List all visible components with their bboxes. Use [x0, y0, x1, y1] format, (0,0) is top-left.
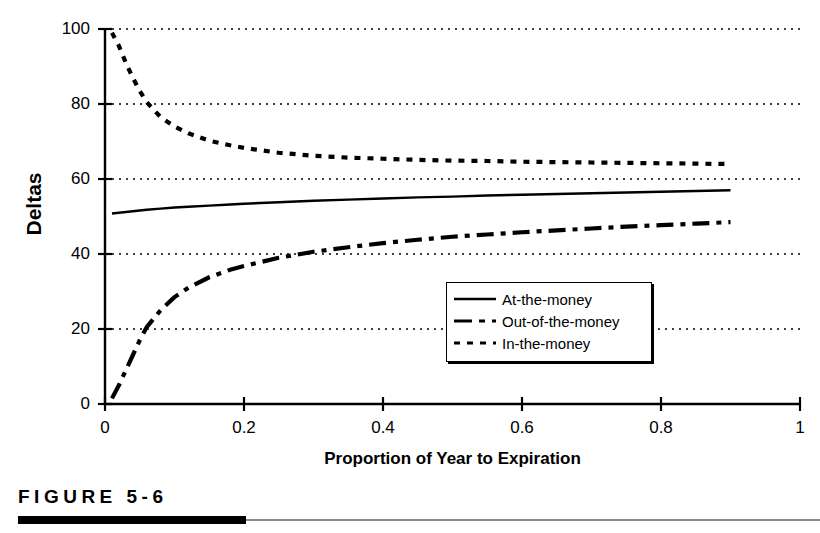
legend-label-at-the-money: At-the-money: [502, 292, 592, 307]
caption-rule-thick: [18, 516, 246, 524]
y-tick-label: 100: [28, 19, 90, 39]
legend-item: At-the-money: [453, 288, 645, 310]
x-tick-label: 0.2: [232, 418, 256, 438]
series-line-in-the-money: [112, 33, 731, 164]
figure-caption-text: FIGURE 5-6: [18, 486, 168, 508]
caption-rule-thin: [246, 519, 820, 521]
x-tick-label: 1: [795, 418, 804, 438]
legend-item: Out-of-the-money: [453, 310, 645, 332]
x-tick-label: 0.6: [510, 418, 534, 438]
chart-legend: At-the-money Out-of-the-money In-the-mon…: [446, 282, 652, 362]
x-tick-label: 0.8: [649, 418, 673, 438]
legend-swatch-at-the-money: [453, 293, 497, 305]
legend-swatch-out-of-the-money: [453, 315, 497, 327]
legend-label-in-the-money: In-the-money: [502, 336, 590, 351]
legend-label-out-of-the-money: Out-of-the-money: [502, 314, 620, 329]
chart-plot: [0, 0, 820, 470]
legend-item: In-the-money: [453, 332, 645, 354]
x-tick-label: 0: [100, 418, 109, 438]
x-axis-title: Proportion of Year to Expiration: [105, 449, 800, 469]
figure-caption-block: FIGURE 5-6: [0, 486, 820, 533]
y-tick-label: 0: [28, 394, 90, 414]
legend-swatch-in-the-money: [453, 337, 497, 349]
figure-container: 020406080100 00.20.40.60.81 Deltas Propo…: [0, 0, 820, 533]
x-tick-label: 0.4: [371, 418, 395, 438]
y-tick-label: 20: [28, 319, 90, 339]
series-line-at-the-money: [112, 190, 731, 213]
y-tick-label: 80: [28, 94, 90, 114]
y-axis-title: Deltas: [22, 144, 46, 264]
